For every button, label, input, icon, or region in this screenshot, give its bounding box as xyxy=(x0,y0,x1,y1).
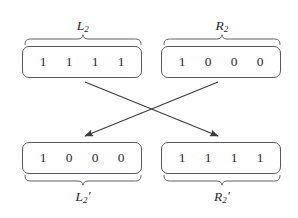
brace-top-left xyxy=(25,35,141,45)
register-box-top-left: 1 1 1 1 xyxy=(22,46,142,78)
bit-cell: 0 xyxy=(195,55,221,69)
bit-cell: 0 xyxy=(56,151,82,165)
register-label-subscript: 2 xyxy=(224,24,229,34)
brace-top-right xyxy=(164,35,280,45)
register-label-prime: ′ xyxy=(227,188,230,203)
bit-cell: 0 xyxy=(82,151,108,165)
register-label-bottom-right: R2′ xyxy=(192,189,252,205)
register-label-base: L xyxy=(75,189,83,204)
bit-cell: 0 xyxy=(108,151,134,165)
register-box-bottom-right: 1 1 1 1 xyxy=(161,142,281,174)
register-label-bottom-left: L2′ xyxy=(53,189,113,205)
register-label-top-right: R2 xyxy=(192,18,252,34)
register-box-bottom-left: 1 0 0 0 xyxy=(22,142,142,174)
bit-cell: 1 xyxy=(169,151,195,165)
register-label-base: R xyxy=(215,18,223,33)
brace-bottom-right xyxy=(164,176,280,186)
bit-cell: 1 xyxy=(221,151,247,165)
register-label-subscript: 2 xyxy=(84,24,89,34)
brace-bottom-left xyxy=(25,176,141,186)
register-label-top-left: L2 xyxy=(53,18,113,34)
bit-cell: 1 xyxy=(30,151,56,165)
bit-cell: 1 xyxy=(56,55,82,69)
bit-cell: 1 xyxy=(30,55,56,69)
bit-cell: 1 xyxy=(169,55,195,69)
register-label-subscript: 2 xyxy=(83,195,88,205)
bit-cell: 1 xyxy=(108,55,134,69)
register-label-prime: ′ xyxy=(88,188,91,203)
bit-cell: 1 xyxy=(195,151,221,165)
register-box-top-right: 1 0 0 0 xyxy=(161,46,281,78)
figure-canvas: L2 1 1 1 1 R2 1 0 0 0 1 0 0 0 L2′ 1 1 1 … xyxy=(0,0,298,218)
bit-cell: 0 xyxy=(247,55,273,69)
diagram-vector-layer xyxy=(0,0,298,218)
bit-cell: 1 xyxy=(247,151,273,165)
bit-cell: 0 xyxy=(221,55,247,69)
bit-cell: 1 xyxy=(82,55,108,69)
